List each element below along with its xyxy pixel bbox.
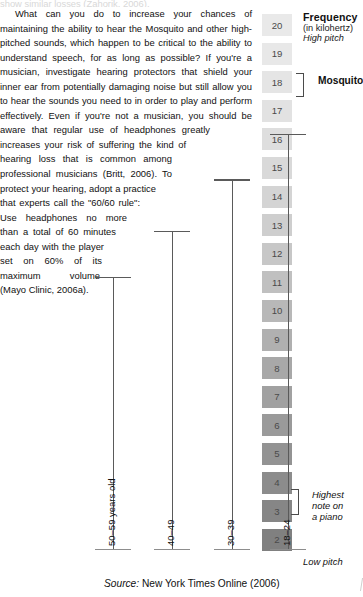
piano-bracket-icon: [291, 489, 299, 515]
scale-block-18: 18: [262, 71, 292, 93]
legend-title: Frequency: [303, 12, 357, 23]
mosquito-bracket-icon: [296, 73, 304, 97]
text-wrap-spacer: [100, 306, 252, 322]
piano-annotation-line3: a piano: [312, 512, 344, 523]
source-note: Source: New York Times Online (2006): [104, 578, 280, 589]
bar-label-4: 18–24: [281, 519, 292, 545]
text-wrap-spacer: [140, 197, 252, 212]
bar-foot: [154, 549, 190, 550]
legend-high-pitch: High pitch: [303, 33, 357, 44]
mosquito-annotation: Mosquito: [318, 76, 363, 87]
legend-low-pitch: Low pitch: [303, 557, 343, 568]
text-wrap-spacer: [100, 290, 252, 306]
bar-foot: [95, 549, 131, 550]
source-text: New York Times Online (2006): [142, 578, 280, 589]
piano-annotation-line2: note on: [312, 501, 344, 512]
page-corner-mark: [351, 578, 363, 591]
scale-block-19: 19: [262, 43, 292, 65]
scale-block-17: 17: [262, 100, 292, 122]
text-wrap-spacer: [127, 212, 252, 227]
text-wrap-spacer: [104, 242, 252, 258]
scale-block-20: 20: [262, 14, 292, 36]
text-wrap-spacer: [102, 258, 252, 274]
legend-unit: (in kilohertz): [303, 23, 357, 34]
bar-stem: [232, 179, 233, 548]
article-body: show similar losses (Zahorik, 2006). Wha…: [0, 0, 252, 322]
text-wrap-spacer: [210, 137, 252, 152]
bar-stem: [172, 231, 173, 549]
bar-foot: [270, 549, 306, 550]
bar-foot: [214, 549, 250, 550]
piano-annotation: Highest note on a piano: [312, 490, 344, 522]
frequency-legend: Frequency (in kilohertz) High pitch: [303, 12, 357, 44]
bar-label-1: 50–59 years old: [106, 478, 117, 546]
bar-stem: [288, 134, 289, 549]
text-wrap-spacer: [186, 152, 252, 167]
bar-label-2: 40–49: [165, 519, 176, 545]
clipped-previous-line: show similar losses (Zahorik, 2006).: [0, 0, 252, 7]
text-wrap-spacer: [156, 182, 252, 197]
bar-label-3: 30–39: [225, 519, 236, 545]
source-label: Source:: [104, 578, 139, 589]
